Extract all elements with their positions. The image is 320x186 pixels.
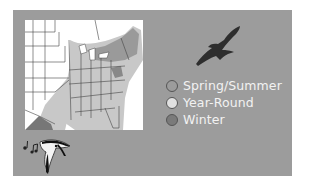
legend-item-winter: Winter <box>166 111 282 128</box>
year-round-swatch-icon <box>166 97 178 109</box>
range-map <box>25 20 143 130</box>
legend-label: Spring/Summer <box>183 79 282 93</box>
us-map-icon <box>25 20 143 130</box>
winter-swatch-icon <box>166 114 178 126</box>
legend: Spring/Summer Year-Round Winter <box>166 77 282 128</box>
legend-label: Winter <box>183 113 225 127</box>
legend-item-year-round: Year-Round <box>166 94 282 111</box>
singing-bird-icon <box>20 136 80 178</box>
hawk-silhouette-icon <box>194 24 242 68</box>
spring-summer-swatch-icon <box>166 80 178 92</box>
legend-label: Year-Round <box>183 96 254 110</box>
music-note-icon <box>23 141 37 154</box>
legend-item-spring-summer: Spring/Summer <box>166 77 282 94</box>
